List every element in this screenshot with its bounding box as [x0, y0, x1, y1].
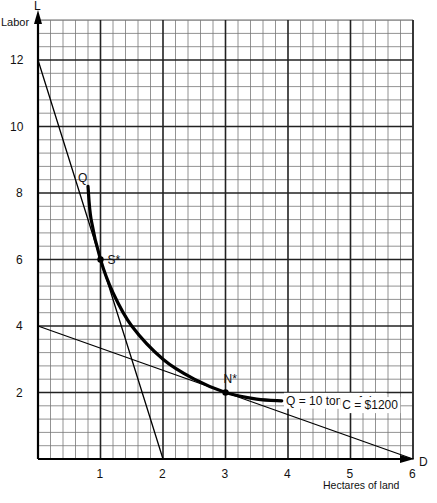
isoquant-start-label: Q [78, 171, 87, 185]
x-tick-label: 2 [159, 467, 166, 481]
y-axis-label: Labor [1, 16, 29, 28]
x-axis-letter: D [419, 455, 428, 469]
x-tick-label: 6 [409, 467, 416, 481]
isocost-label: C = $1200 [342, 398, 398, 412]
isoquant-curve [88, 186, 282, 400]
x-tick-label: 5 [347, 467, 354, 481]
x-tick-label: 4 [284, 467, 291, 481]
label-n-star: N* [224, 372, 238, 386]
x-tick-label: 1 [97, 467, 104, 481]
y-axis-letter: L [34, 0, 41, 13]
point-s-star [97, 256, 103, 262]
label-s-star: S* [108, 253, 121, 267]
x-tick-label: 3 [222, 467, 229, 481]
y-tick-label: 4 [16, 319, 23, 333]
y-tick-label: 10 [10, 120, 24, 134]
point-n-star [222, 389, 228, 395]
isoquant-chart: L Labor D Hectares of land 1234562468101… [0, 0, 437, 503]
x-axis-label: Hectares of land [323, 479, 400, 491]
y-tick-label: 2 [16, 386, 23, 400]
y-tick-label: 12 [10, 53, 24, 67]
annotations: QS*N*Q = 10 tons of riceC = $1200 [78, 171, 400, 413]
y-tick-label: 6 [16, 253, 23, 267]
y-tick-label: 8 [16, 186, 23, 200]
